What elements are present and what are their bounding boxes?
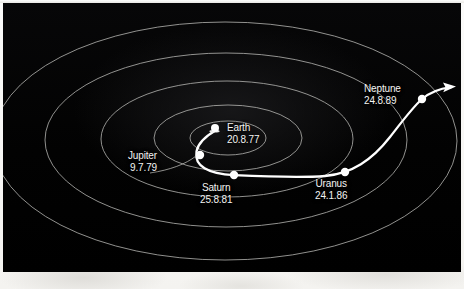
planet-marker-uranus	[341, 168, 349, 176]
voyager-trajectory-figure: Earth20.8.77Jupiter9.7.79Saturn25.8.81Ur…	[0, 0, 464, 289]
planet-marker-jupiter	[196, 151, 204, 159]
planet-marker-saturn	[230, 171, 238, 179]
planet-marker-neptune	[418, 95, 426, 103]
trajectory-layer	[0, 0, 464, 289]
planet-markers-group	[196, 95, 426, 179]
planet-marker-earth	[211, 124, 219, 132]
orbit-arc-foreground-segment	[150, 156, 196, 173]
voyager-trajectory-path	[196, 87, 451, 177]
